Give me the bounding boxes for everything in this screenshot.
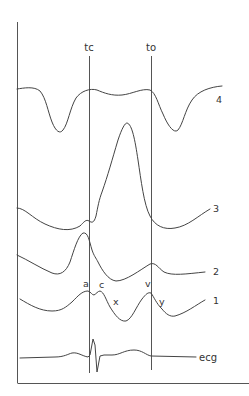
marker-label-to: to <box>146 42 156 53</box>
trace-3 <box>17 123 210 230</box>
trace-ecg <box>20 339 196 372</box>
waveform-diagram: tc to 4 3 2 1 a c x v y ecg <box>0 0 249 396</box>
trace-label-2: 2 <box>213 266 219 277</box>
wave-label-y: y <box>159 296 165 307</box>
wave-label-v: v <box>145 278 151 289</box>
trace-2 <box>17 233 205 281</box>
trace-label-3: 3 <box>213 203 219 214</box>
wave-label-c: c <box>99 279 104 290</box>
wave-label-a: a <box>83 278 89 289</box>
marker-label-tc: tc <box>84 42 93 53</box>
trace-label-1: 1 <box>213 295 219 306</box>
trace-label-ecg: ecg <box>199 352 217 363</box>
wave-label-x: x <box>113 296 119 307</box>
trace-label-4: 4 <box>216 94 222 105</box>
trace-4 <box>17 86 222 132</box>
